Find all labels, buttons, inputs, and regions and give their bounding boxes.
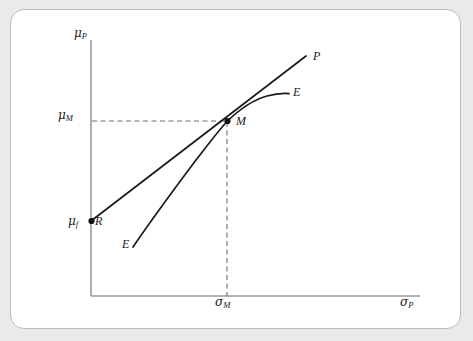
mu-m-symbol: μ	[58, 108, 66, 122]
sigma-m-subscript: M	[223, 300, 230, 310]
sigma-m-tick-label: σM	[215, 296, 230, 310]
capital-market-line	[91, 56, 306, 221]
axes-group	[91, 40, 420, 296]
mu-f-subscript: f	[76, 219, 78, 229]
point-p-label: P	[313, 50, 320, 62]
point-m-marker	[224, 118, 230, 124]
x-axis-label-symbol: σ	[400, 295, 408, 309]
point-m-label: M	[236, 115, 246, 127]
figure-root: μP μM μf σM σP R M P E E	[0, 0, 473, 341]
point-r-label: R	[95, 215, 102, 227]
mu-f-tick-label: μf	[68, 215, 78, 229]
y-axis-label: μP	[74, 27, 87, 41]
y-axis-label-subscript: P	[82, 31, 87, 41]
frontier-lower-end-label: E	[122, 238, 129, 250]
mu-m-subscript: M	[66, 113, 73, 123]
y-axis-label-symbol: μ	[74, 26, 82, 40]
point-r-marker	[88, 218, 94, 224]
mu-f-symbol: μ	[68, 214, 76, 228]
chart-canvas	[0, 0, 473, 341]
x-axis-label-subscript: P	[408, 300, 413, 310]
frontier-upper-end-label: E	[293, 86, 300, 98]
sigma-m-symbol: σ	[215, 295, 223, 309]
x-axis-label: σP	[400, 296, 413, 310]
mu-m-tick-label: μM	[58, 109, 73, 123]
